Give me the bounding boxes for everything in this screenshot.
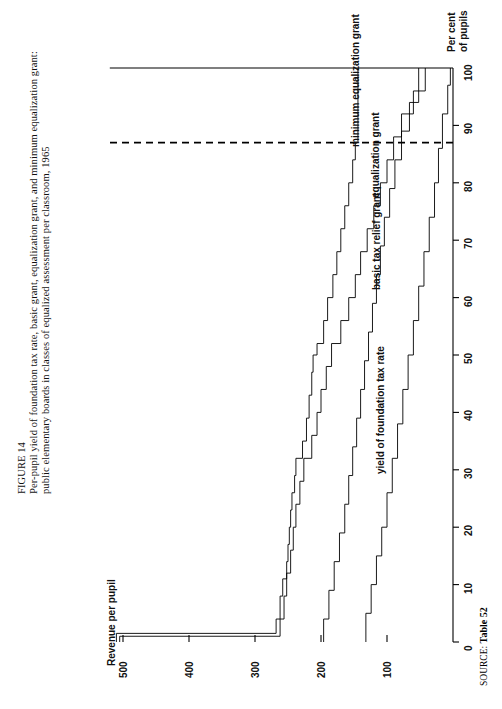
x-tick-label-40: 40 — [463, 410, 474, 421]
x-tick-group — [453, 125, 459, 642]
series-minimum-equalization-grant — [116, 68, 358, 642]
y-tick-label-200: 200 — [316, 661, 327, 678]
x-tick-label-30: 30 — [463, 468, 474, 479]
x-tick-label-80: 80 — [463, 181, 474, 192]
x-tick-label-0: 0 — [463, 645, 474, 651]
y-tick-label-500: 500 — [118, 661, 129, 678]
curve-label-equalization-grant: equalization grant — [370, 113, 381, 199]
x-tick-label-70: 70 — [463, 238, 474, 249]
x-tick-label-20: 20 — [463, 525, 474, 536]
chart-plot-area — [0, 0, 502, 709]
curve-label-basic-tax-relief-grant: basic tax relief grant — [371, 193, 382, 290]
x-tick-label-90: 90 — [463, 123, 474, 134]
y-tick-label-100: 100 — [382, 661, 393, 678]
y-tick-label-300: 300 — [250, 661, 261, 678]
chart-svg — [0, 0, 502, 709]
y-tick-label-400: 400 — [184, 661, 195, 678]
x-tick-label-100: 100 — [463, 64, 474, 81]
curve-label-yield-of-foundation-tax-rate: yield of foundation tax rate — [375, 346, 386, 474]
curve-label-minimum-equalization-grant: minimum equalization grant — [350, 14, 361, 147]
x-tick-label-60: 60 — [463, 295, 474, 306]
x-tick-label-50: 50 — [463, 353, 474, 364]
x-tick-label-10: 10 — [463, 582, 474, 593]
